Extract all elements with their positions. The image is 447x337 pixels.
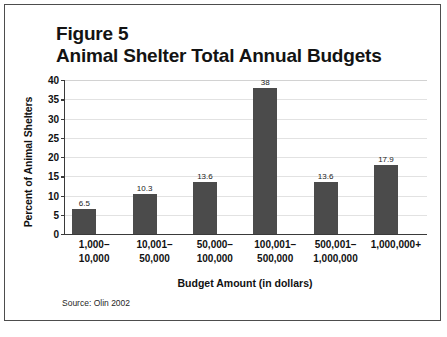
x-axis-category-label: 100,001–500,000 [245,238,305,266]
bar-slot: 38 [246,80,306,234]
y-axis-tick-label: 15 [33,171,59,182]
bar[interactable] [72,209,96,234]
x-axis-category-label: 1,000,000+ [366,238,426,252]
y-axis-tick-label: 30 [33,113,59,124]
bar-value-label: 6.5 [72,199,96,208]
title-line-1: Figure 5 [56,23,436,45]
plot-area: 6.510.313.63813.617.9 [64,80,427,235]
y-axis-tick-mark [61,234,65,235]
x-axis-category-label: 50,000–100,000 [185,238,245,266]
x-axis-title: Budget Amount (in dollars) [64,277,426,289]
figure-frame: Figure 5 Animal Shelter Total Annual Bud… [4,4,441,321]
bar-slot: 6.5 [65,80,125,234]
x-axis-category-line: 100,001– [245,238,305,252]
y-axis-tick-label: 25 [33,132,59,143]
y-axis-tick-labels: 0510152025303540 [33,80,59,234]
bar[interactable] [193,182,217,234]
bar-value-label: 38 [253,78,277,87]
title-line-2: Animal Shelter Total Annual Budgets [56,45,436,67]
x-axis-category-line: 500,001– [305,238,365,252]
bar-value-label: 10.3 [133,184,157,193]
bar-value-label: 13.6 [314,172,338,181]
bar-slot: 13.6 [306,80,366,234]
x-axis-category-line: 1,000– [64,238,124,252]
bar-slot: 10.3 [125,80,185,234]
x-axis-category-label: 500,001–1,000,000 [305,238,365,266]
bar-value-label: 17.9 [374,155,398,164]
y-axis-tick-label: 5 [33,209,59,220]
x-axis-category-line: 50,000– [185,238,245,252]
bar-slot: 17.9 [367,80,427,234]
bar[interactable] [253,88,277,234]
chart-title: Figure 5 Animal Shelter Total Annual Bud… [56,23,436,67]
y-axis-tick-label: 40 [33,75,59,86]
x-axis-category-line: 10,000 [64,252,124,266]
x-axis-category-line: 100,000 [185,252,245,266]
bar[interactable] [133,194,157,234]
bar-value-label: 13.6 [193,172,217,181]
x-axis-category-line: 500,000 [245,252,305,266]
bar-slot: 13.6 [186,80,246,234]
bar[interactable] [314,182,338,234]
x-axis-category-line: 10,001– [124,238,184,252]
y-axis-tick-label: 10 [33,190,59,201]
source-note: Source: Olin 2002 [62,298,130,308]
x-axis-category-line: 50,000 [124,252,184,266]
bar[interactable] [374,165,398,234]
x-axis-category-line: 1,000,000+ [366,238,426,252]
x-axis-category-line: 1,000,000 [305,252,365,266]
x-axis-category-label: 10,001–50,000 [124,238,184,266]
y-axis-tick-label: 0 [33,229,59,240]
y-axis-tick-label: 20 [33,152,59,163]
x-axis-category-label: 1,000–10,000 [64,238,124,266]
x-axis-tick-labels: 1,000–10,00010,001–50,00050,000–100,0001… [64,238,426,278]
y-axis-tick-label: 35 [33,94,59,105]
